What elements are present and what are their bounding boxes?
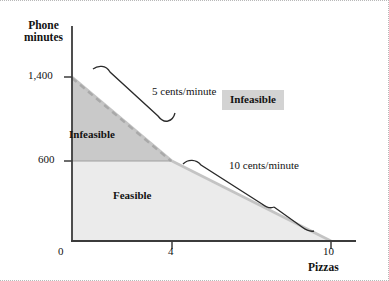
annotation-label-rate-5: 5 cents/minute [152,86,216,98]
y-tick-label-600: 600 [38,154,55,166]
x-tick-label-4: 4 [168,246,174,258]
y-axis-title-line2: minutes [24,31,63,43]
brace-tick-10cents [271,197,274,207]
brace-tick-5cents [168,113,175,121]
x-tick-label-0: 0 [58,246,64,258]
x-axis-title: Pizzas [308,261,339,273]
y-axis-title: Phone minutes [24,19,63,43]
figure-frame: Phone minutes Pizzas 1,400 600 0 4 10 In… [0,0,389,281]
annotation-label-rate-10: 10 cents/minute [229,160,299,172]
y-tick-label-1400: 1,400 [28,70,53,82]
region-label-infeasible-box: Infeasible [222,90,284,110]
region-label-infeasible-triangle: Infeasible [69,129,115,141]
x-tick-label-10: 10 [323,246,334,258]
region-label-feasible: Feasible [113,190,152,202]
y-axis-title-line1: Phone [24,19,63,31]
